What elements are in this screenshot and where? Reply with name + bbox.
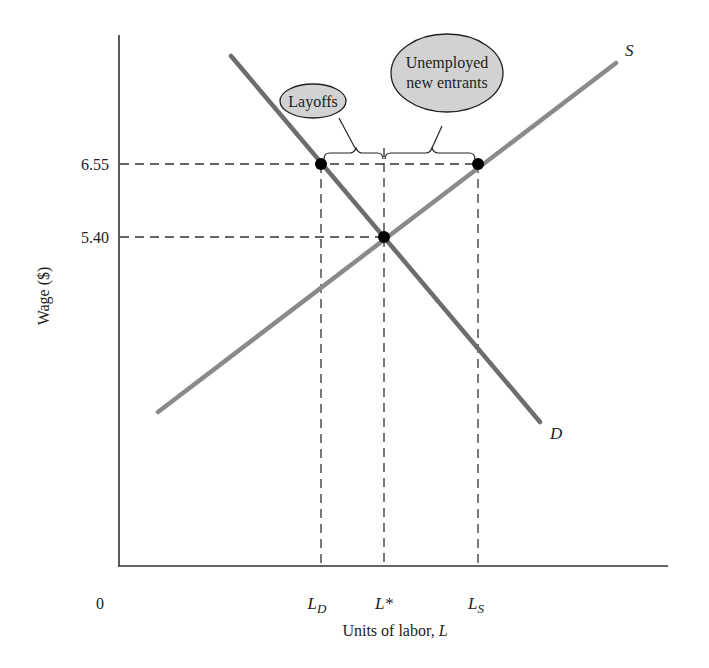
y-tick-655: 6.55 <box>81 156 109 173</box>
x-axis-label: Units of labor, L <box>342 622 447 639</box>
x-tick-Lstar: L* <box>374 594 393 613</box>
unemployed-label-line2: new entrants <box>406 74 487 91</box>
y-tick-540: 5.40 <box>81 229 109 246</box>
unemployed-brace <box>385 126 475 159</box>
x-tick-LS: LS <box>467 594 484 616</box>
x-tick-LD: LD <box>307 594 327 616</box>
layoffs-brace <box>324 118 383 159</box>
layoffs-label: Layoffs <box>288 93 337 111</box>
x-axis-label-var: L <box>438 622 448 639</box>
x-axis-label-text: Units of labor, <box>342 622 438 639</box>
point-demand-at-min-wage <box>315 158 327 170</box>
demand-curve-label: D <box>549 424 563 443</box>
unemployed-callout <box>391 34 503 112</box>
supply-curve-label: S <box>625 41 634 60</box>
x-tick-LS-main: L <box>467 594 477 613</box>
origin-label: 0 <box>96 595 104 612</box>
labor-market-chart: Layoffs Unemployed new entrants S D 6.55… <box>0 0 709 668</box>
x-tick-LD-sub: D <box>316 601 327 616</box>
unemployed-label-line1: Unemployed <box>406 54 489 72</box>
x-tick-LS-sub: S <box>477 601 484 616</box>
point-supply-at-min-wage <box>472 158 484 170</box>
point-equilibrium <box>378 231 390 243</box>
y-axis-label: Wage ($) <box>35 267 53 326</box>
x-tick-LD-main: L <box>307 594 317 613</box>
